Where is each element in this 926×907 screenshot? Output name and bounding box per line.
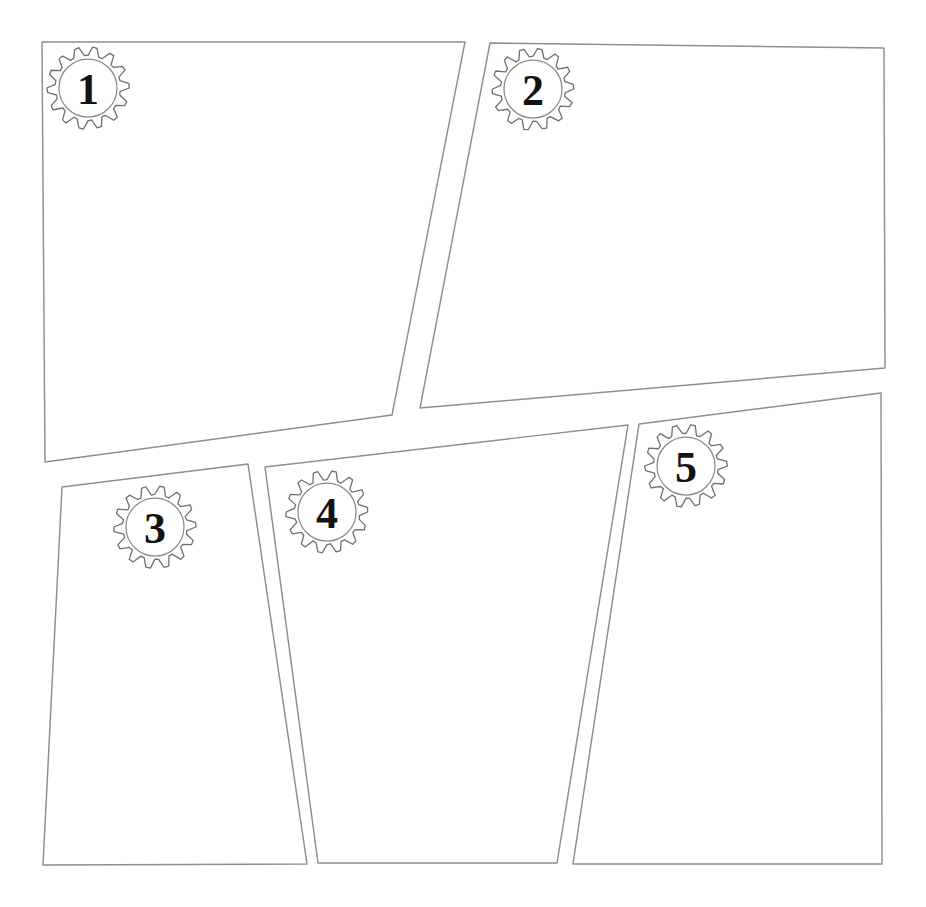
panel-3[interactable]: 3 — [43, 464, 307, 865]
comic-panel-board: 12345 — [0, 0, 926, 907]
panel-2[interactable]: 2 — [420, 43, 885, 408]
panel-4[interactable]: 4 — [265, 425, 628, 863]
panel-1[interactable]: 1 — [42, 42, 465, 462]
panel-2-number: 2 — [522, 66, 544, 115]
panel-4-number: 4 — [316, 489, 338, 538]
panel-2-frame[interactable] — [420, 43, 885, 408]
panel-5-number: 5 — [675, 443, 697, 492]
panel-template-canvas: 12345 — [0, 0, 926, 907]
panel-1-number: 1 — [77, 65, 99, 114]
panel-3-number: 3 — [144, 504, 166, 553]
